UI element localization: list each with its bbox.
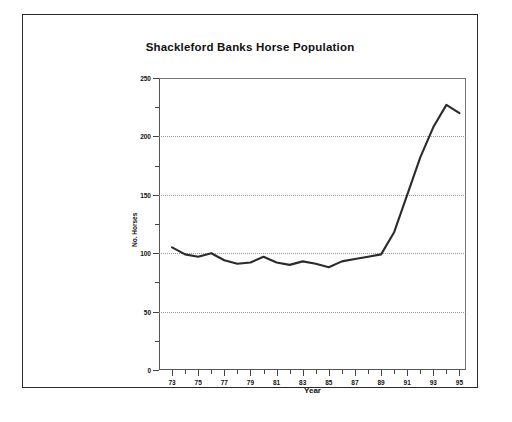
x-tick-80 <box>264 370 265 374</box>
x-axis-title: Year <box>159 386 466 395</box>
y-tick-label-100: 100 <box>140 250 151 257</box>
y-tick-label-200: 200 <box>140 133 151 140</box>
x-tick-81 <box>277 370 278 376</box>
x-tick-95 <box>459 370 460 376</box>
x-tick-85 <box>329 370 330 376</box>
x-tick-87 <box>355 370 356 376</box>
x-tick-label-77: 77 <box>221 379 228 386</box>
x-tick-label-93: 93 <box>430 379 437 386</box>
x-tick-88 <box>368 370 369 374</box>
x-tick-89 <box>381 370 382 376</box>
x-tick-73 <box>172 370 173 376</box>
x-tick-91 <box>407 370 408 376</box>
y-tick-0 <box>153 370 159 371</box>
plot-area: 050100150200250 737577798183858789919395 <box>159 78 466 370</box>
x-tick-94 <box>446 370 447 374</box>
x-tick-label-75: 75 <box>195 379 202 386</box>
x-tick-label-91: 91 <box>404 379 411 386</box>
x-tick-label-83: 83 <box>299 379 306 386</box>
chart-title: Shackleford Banks Horse Population <box>23 41 477 53</box>
x-tick-79 <box>250 370 251 376</box>
y-axis-title: No. Horses <box>131 213 138 247</box>
x-tick-93 <box>433 370 434 376</box>
y-tick-label-250: 250 <box>140 75 151 82</box>
x-tick-74 <box>185 370 186 374</box>
x-tick-label-85: 85 <box>325 379 332 386</box>
x-tick-92 <box>420 370 421 374</box>
x-tick-76 <box>211 370 212 374</box>
y-tick-label-50: 50 <box>144 308 151 315</box>
x-tick-83 <box>303 370 304 376</box>
x-tick-75 <box>198 370 199 376</box>
y-tick-label-0: 0 <box>147 367 151 374</box>
y-tick-label-150: 150 <box>140 191 151 198</box>
x-tick-label-89: 89 <box>377 379 384 386</box>
x-tick-label-79: 79 <box>247 379 254 386</box>
x-tick-77 <box>224 370 225 376</box>
x-tick-label-95: 95 <box>456 379 463 386</box>
x-tick-label-73: 73 <box>168 379 175 386</box>
x-tick-84 <box>316 370 317 374</box>
figure-caption <box>28 408 498 422</box>
x-tick-label-87: 87 <box>351 379 358 386</box>
figure-frame: Shackleford Banks Horse Population No. H… <box>22 14 478 388</box>
x-tick-label-81: 81 <box>273 379 280 386</box>
x-tick-78 <box>237 370 238 374</box>
x-tick-82 <box>290 370 291 374</box>
data-series-line <box>159 78 466 370</box>
x-tick-86 <box>342 370 343 374</box>
x-tick-90 <box>394 370 395 374</box>
